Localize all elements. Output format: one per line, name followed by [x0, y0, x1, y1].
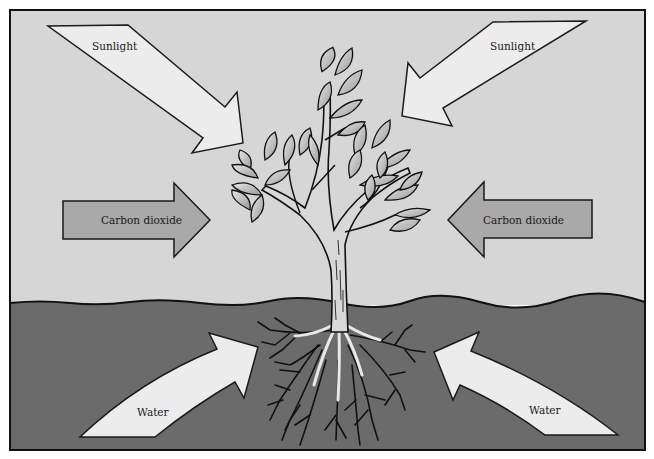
- co2-left-label: Carbon dioxide: [101, 214, 182, 226]
- water-left-label: Water: [137, 406, 170, 418]
- water-right-label: Water: [529, 404, 562, 416]
- co2-right-label: Carbon dioxide: [483, 214, 564, 226]
- photosynthesis-diagram: Sunlight Sunlight Carbon dioxide Carbon …: [0, 0, 654, 459]
- sunlight-right-label: Sunlight: [490, 40, 536, 52]
- sunlight-left-label: Sunlight: [92, 40, 138, 52]
